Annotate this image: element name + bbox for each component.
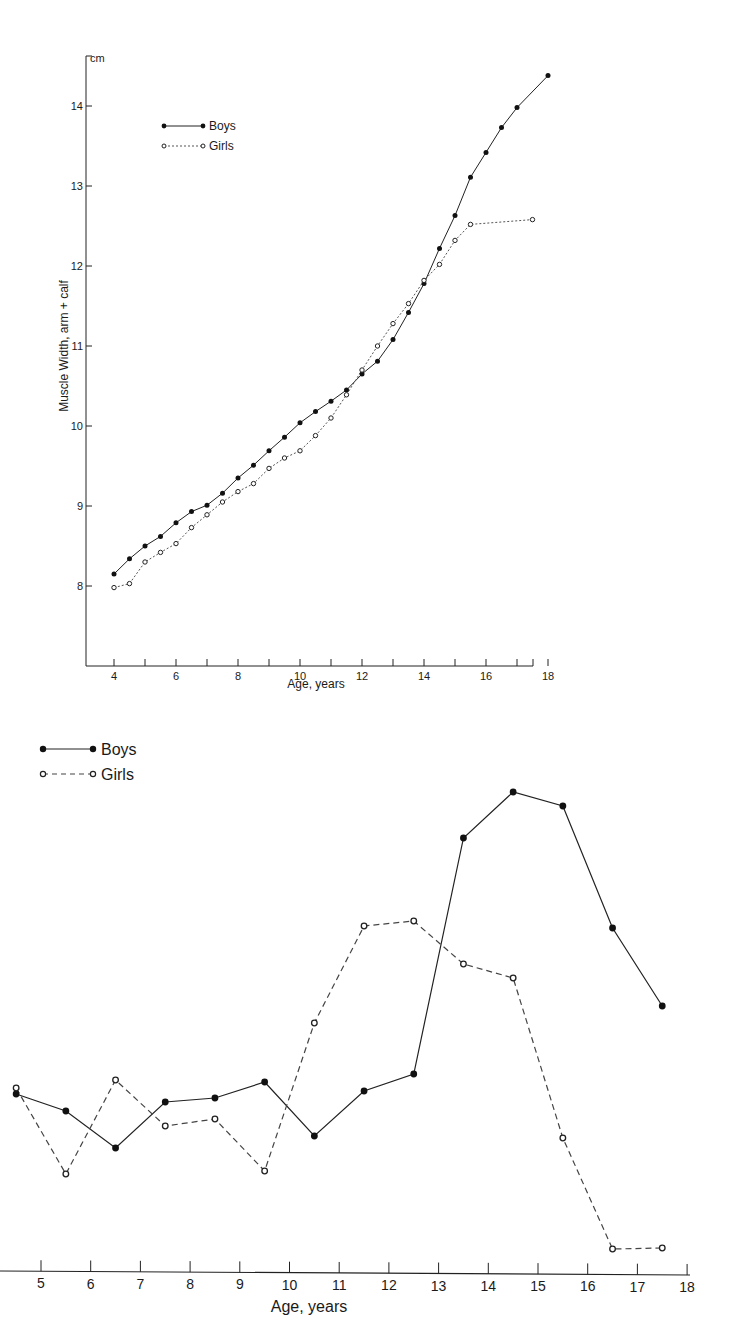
girls-point [453,238,457,242]
girls-point [63,1171,69,1177]
girls-point [530,217,534,221]
legend-boys-marker-icon [162,124,167,129]
boys-point [236,476,241,481]
girls-point [189,525,193,529]
x-tick-label: 9 [236,1276,244,1292]
girls-point [375,344,379,348]
top-y-axis-label: Muscle Width, arm + calf [57,279,71,411]
girls-point [174,541,178,545]
y-tick-label: 14 [71,100,83,112]
girls-point [312,1020,318,1026]
boys-point [437,246,442,251]
boys-point [313,409,318,414]
girls-point [298,449,302,453]
x-tick-label: 6 [87,1276,95,1292]
x-tick-label: 14 [481,1278,497,1294]
boys-point [112,1145,119,1152]
girls-point [361,923,367,929]
boys-point [460,835,467,842]
girls-point [212,1116,218,1122]
top-legend-girls: Girls [209,139,234,153]
top-legend: Boys Girls [162,119,236,153]
boys-point [205,503,210,508]
x-tick-label: 8 [235,670,241,682]
girls-point [112,585,116,589]
girls-point [422,278,426,282]
growth-velocity-chart: 56789101112131415161718 Age, years Boys … [0,700,735,1320]
bottom-x-axis-label: Age, years [271,1298,347,1315]
x-tick-label: 15 [530,1278,546,1294]
girls-point [143,560,147,564]
girls-point [510,975,516,981]
boys-point [282,435,287,440]
top-x-axis-label: Age, years [287,677,344,691]
boys-line [16,792,662,1148]
girls-point [236,489,240,493]
boys-point [251,463,256,468]
boys-point [609,925,616,932]
girls-point [360,368,364,372]
boys-point [515,105,520,110]
girls-point [262,1168,268,1174]
girls-point [468,222,472,226]
boys-point [546,73,551,78]
x-tick-label: 4 [111,670,117,682]
legend-girls-marker-icon [162,144,166,148]
boys-point [189,509,194,514]
x-tick-label: 14 [418,670,430,682]
boys-point [559,803,566,810]
bottom-legend-boys: Boys [101,741,137,758]
y-tick-label: 10 [71,420,83,432]
boys-point [143,544,148,549]
bottom-series [13,789,666,1252]
x-tick-label: 18 [542,670,554,682]
muscle-width-chart: 8910111213144681012141618 cm Muscle Widt… [0,0,735,700]
y-tick-label: 8 [77,580,83,592]
boys-point [391,337,396,342]
x-tick-label: 5 [37,1275,45,1291]
girls-point [329,416,333,420]
girls-point [267,466,271,470]
boys-point [468,175,473,180]
x-tick-label: 11 [332,1277,347,1293]
boys-point [311,1133,318,1140]
bottom-axes: 56789101112131415161718 [0,1260,695,1295]
x-tick-label: 7 [137,1276,145,1292]
x-tick-label: 6 [173,670,179,682]
x-tick-label: 10 [282,1277,298,1293]
y-tick-label: 11 [72,340,83,352]
boys-point [329,399,334,404]
boys-point [158,534,163,539]
girls-point [205,513,209,517]
boys-point [13,1091,20,1098]
boys-point [344,388,349,393]
girls-point [437,262,441,266]
boys-point [112,572,117,577]
boys-point [406,310,411,315]
legend-girls-marker-icon [40,771,45,776]
boys-point [174,520,179,525]
boys-point [410,1071,417,1078]
girls-point [282,456,286,460]
x-tick-label: 13 [431,1278,447,1294]
y-tick-label: 13 [71,180,83,192]
boys-point [484,150,489,155]
bottom-legend-girls: Girls [101,766,134,783]
boys-line [114,76,548,574]
top-series [112,73,551,590]
boys-point [375,359,380,364]
boys-point [510,789,517,796]
top-legend-boys: Boys [209,119,236,133]
boys-point [127,556,132,561]
girls-point [13,1085,19,1091]
girls-line [16,921,662,1249]
girls-line [114,220,533,588]
girls-point [391,321,395,325]
girls-point [162,1123,168,1129]
x-tick-label: 8 [186,1276,194,1292]
girls-point [313,433,317,437]
boys-point [162,1099,169,1106]
girls-point [659,1245,665,1251]
legend-boys-marker-icon [40,746,46,752]
girls-point [251,481,255,485]
